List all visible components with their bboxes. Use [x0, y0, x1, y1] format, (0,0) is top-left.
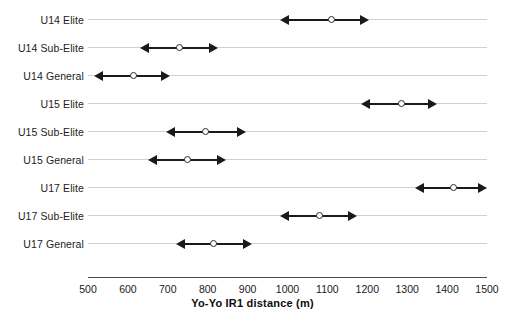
arrow-left-icon: [280, 15, 289, 25]
x-tick-label: 1300: [396, 283, 419, 295]
chart-row: U15 Elite: [0, 94, 505, 114]
data-point-marker: [328, 16, 335, 23]
row-label-u14-general: U14 General: [0, 66, 84, 86]
yo-yo-ir1-range-chart: U14 EliteU14 Sub-EliteU14 GeneralU15 Eli…: [0, 0, 505, 326]
range-interval: [415, 178, 487, 198]
arrow-left-icon: [148, 155, 157, 165]
chart-row: U14 General: [0, 66, 505, 86]
arrow-left-icon: [166, 127, 175, 137]
chart-row: U15 General: [0, 150, 505, 170]
x-tick-label: 1200: [356, 283, 379, 295]
x-axis-line: [88, 277, 487, 278]
arrow-left-icon: [361, 99, 370, 109]
x-tick-label: 500: [79, 283, 97, 295]
x-tick-label: 1100: [316, 283, 339, 295]
x-tick-label: 600: [119, 283, 137, 295]
row-label-u17-sub-elite: U17 Sub-Elite: [0, 206, 84, 226]
arrow-right-icon: [243, 239, 252, 249]
row-label-u15-elite: U15 Elite: [0, 94, 84, 114]
range-interval: [361, 94, 437, 114]
row-label-u15-general: U15 General: [0, 150, 84, 170]
data-point-marker: [202, 128, 209, 135]
arrow-left-icon: [280, 211, 289, 221]
arrow-left-icon: [94, 71, 103, 81]
chart-row: U14 Sub-Elite: [0, 38, 505, 58]
data-point-marker: [130, 72, 137, 79]
gridline: [88, 243, 487, 244]
range-line: [285, 19, 365, 21]
row-label-u14-sub-elite: U14 Sub-Elite: [0, 38, 84, 58]
x-tick-label: 1500: [475, 283, 498, 295]
range-interval: [140, 38, 218, 58]
arrow-right-icon: [161, 71, 170, 81]
x-tick-label: 1400: [435, 283, 458, 295]
range-interval: [280, 206, 358, 226]
arrow-left-icon: [140, 43, 149, 53]
arrow-right-icon: [428, 99, 437, 109]
arrow-right-icon: [478, 183, 487, 193]
data-point-marker: [316, 212, 323, 219]
arrow-right-icon: [217, 155, 226, 165]
range-interval: [166, 122, 246, 142]
arrow-right-icon: [209, 43, 218, 53]
row-label-u15-sub-elite: U15 Sub-Elite: [0, 122, 84, 142]
data-point-marker: [184, 156, 191, 163]
range-interval: [176, 234, 252, 254]
arrow-right-icon: [360, 15, 369, 25]
arrow-left-icon: [415, 183, 424, 193]
data-point-marker: [210, 240, 217, 247]
arrow-right-icon: [237, 127, 246, 137]
chart-row: U17 Sub-Elite: [0, 206, 505, 226]
row-label-u17-general: U17 General: [0, 234, 84, 254]
row-label-u17-elite: U17 Elite: [0, 178, 84, 198]
arrow-left-icon: [176, 239, 185, 249]
x-tick-label: 700: [159, 283, 177, 295]
row-label-u14-elite: U14 Elite: [0, 10, 84, 30]
data-point-marker: [398, 100, 405, 107]
gridline: [88, 131, 487, 132]
arrow-right-icon: [348, 211, 357, 221]
chart-row: U17 Elite: [0, 178, 505, 198]
range-interval: [280, 10, 370, 30]
chart-row: U17 General: [0, 234, 505, 254]
range-interval: [94, 66, 170, 86]
x-axis-title: Yo-Yo IR1 distance (m): [0, 297, 505, 309]
range-interval: [148, 150, 226, 170]
data-point-marker: [176, 44, 183, 51]
x-tick-label: 1000: [276, 283, 299, 295]
x-tick-label: 900: [239, 283, 257, 295]
x-tick-label: 800: [199, 283, 217, 295]
chart-row: U15 Sub-Elite: [0, 122, 505, 142]
chart-row: U14 Elite: [0, 10, 505, 30]
data-point-marker: [450, 184, 457, 191]
